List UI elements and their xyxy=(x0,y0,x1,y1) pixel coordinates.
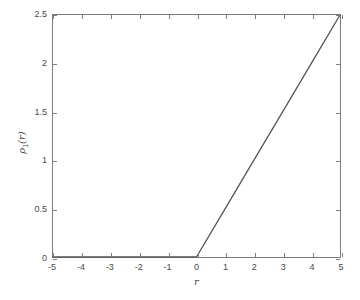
x-tick-label: -2 xyxy=(135,262,143,272)
x-tick-bottom xyxy=(284,253,285,257)
y-tick-left xyxy=(53,64,57,65)
y-tick-label: 2 xyxy=(7,58,47,68)
x-tick-top xyxy=(255,15,256,19)
y-tick-label: 0.5 xyxy=(7,204,47,214)
x-tick-top xyxy=(111,15,112,19)
x-tick-label: 0 xyxy=(194,262,199,272)
x-tick-bottom xyxy=(140,253,141,257)
y-axis-label-argument: (r) xyxy=(16,131,27,144)
y-tick-right xyxy=(336,15,340,16)
y-tick-left xyxy=(53,113,57,114)
x-tick-label: 4 xyxy=(310,262,315,272)
x-axis-label-text: r xyxy=(194,276,199,287)
y-tick-left xyxy=(53,259,57,260)
x-tick-bottom xyxy=(342,253,343,257)
x-tick-label: 3 xyxy=(281,262,286,272)
y-axis-label: ρ1(r) xyxy=(16,113,29,173)
y-tick-left xyxy=(53,161,57,162)
x-tick-top xyxy=(284,15,285,19)
x-tick-label: -1 xyxy=(164,262,172,272)
x-tick-top xyxy=(169,15,170,19)
x-tick-label: -4 xyxy=(77,262,85,272)
x-tick-label: -5 xyxy=(48,262,56,272)
y-tick-left xyxy=(53,15,57,16)
y-tick-right xyxy=(336,259,340,260)
plot-area xyxy=(52,14,341,258)
x-tick-bottom xyxy=(313,253,314,257)
y-tick-right xyxy=(336,161,340,162)
x-tick-top xyxy=(342,15,343,19)
x-tick-top xyxy=(226,15,227,19)
x-tick-bottom xyxy=(198,253,199,257)
y-axis-label-symbol: ρ xyxy=(16,148,27,154)
x-tick-top xyxy=(198,15,199,19)
y-tick-label: 0 xyxy=(7,253,47,263)
x-tick-bottom xyxy=(53,253,54,257)
data-series-svg xyxy=(53,15,340,257)
x-tick-label: 1 xyxy=(223,262,228,272)
x-axis-label: r xyxy=(52,276,341,287)
y-tick-left xyxy=(53,210,57,211)
y-tick-right xyxy=(336,64,340,65)
y-tick-right xyxy=(336,113,340,114)
x-tick-bottom xyxy=(82,253,83,257)
x-tick-label: -3 xyxy=(106,262,114,272)
y-tick-label: 2.5 xyxy=(7,9,47,19)
x-tick-bottom xyxy=(226,253,227,257)
x-tick-label: 2 xyxy=(252,262,257,272)
x-tick-bottom xyxy=(111,253,112,257)
x-tick-top xyxy=(82,15,83,19)
data-line-rho1 xyxy=(53,15,340,257)
y-tick-right xyxy=(336,210,340,211)
y-axis-label-subscript: 1 xyxy=(22,144,29,148)
figure-canvas: -5-4-3-2-1012345 00.511.522.5 r ρ1(r) xyxy=(0,0,360,300)
x-tick-bottom xyxy=(169,253,170,257)
x-tick-bottom xyxy=(255,253,256,257)
x-tick-label: 5 xyxy=(338,262,343,272)
x-tick-top xyxy=(140,15,141,19)
x-tick-top xyxy=(313,15,314,19)
